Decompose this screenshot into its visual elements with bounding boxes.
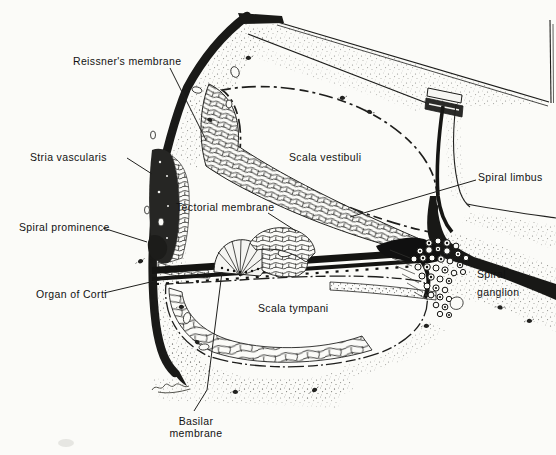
- reissners-membrane-label: Reissner's membrane: [73, 55, 181, 67]
- stria-vascularis-label: Stria vascularis: [30, 151, 107, 163]
- basilar-membrane-label-line1: Basilar: [179, 415, 214, 427]
- spiral-ganglion-label-line2: ganglion: [477, 286, 520, 298]
- spiral-limbus-label: Spiral limbus: [478, 171, 543, 183]
- stria-vascularis-leader: [127, 158, 152, 174]
- beam-end-face-edge2: [553, 24, 554, 103]
- cochlea-illustration: Reissner's membrane Stria vascularis Spi…: [0, 0, 556, 455]
- faint-print-mark: [58, 439, 74, 447]
- cochlea-cross-section-figure: Reissner's membrane Stria vascularis Spi…: [0, 0, 556, 455]
- wall-tip-cap: [238, 13, 284, 24]
- scala-tympani-label: Scala tympani: [258, 302, 329, 314]
- bone-stipple-pillar: [446, 102, 470, 205]
- beam-end-face-edge: [550, 20, 551, 103]
- organ-of-corti-group: [214, 228, 315, 277]
- tectorial-membrane-label: Tectorial membrane: [176, 201, 275, 213]
- spiral-ganglion-label-line1: Spiral: [477, 268, 506, 280]
- spiral-prominence-leader: [103, 228, 147, 242]
- spiral-prominence-label: Spiral prominence: [19, 221, 110, 233]
- basilar-membrane-label-line2: membrane: [170, 427, 223, 439]
- small-white-vesicle: [450, 297, 463, 309]
- organ-of-corti-label: Organ of Corti: [36, 288, 107, 300]
- scala-vestibuli-label: Scala vestibuli: [289, 151, 361, 163]
